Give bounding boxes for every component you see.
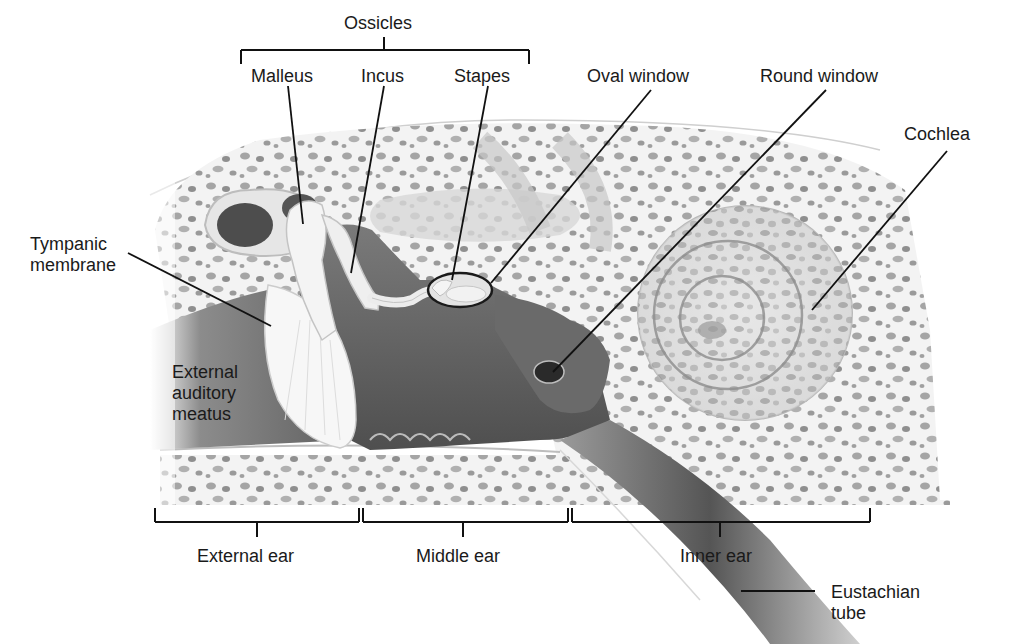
region-brackets [155, 508, 870, 537]
stapes-label: Stapes [454, 66, 510, 87]
cochlea-label: Cochlea [904, 124, 970, 145]
ear-anatomy-diagram: Ossicles Malleus Incus Stapes Oval windo… [0, 0, 1010, 644]
external-ear-label: External ear [197, 546, 294, 567]
external-auditory-meatus-label: External auditory meatus [172, 362, 238, 425]
ossicles-bracket [241, 37, 529, 64]
oval-window-label: Oval window [587, 66, 689, 87]
epitympanic-recess [217, 203, 273, 247]
tympanic-membrane-label: Tympanic membrane [30, 234, 116, 276]
semicircular-canal [370, 189, 580, 242]
round-window-label: Round window [760, 66, 878, 87]
ossicles-label: Ossicles [344, 13, 412, 34]
incus-label: Incus [361, 66, 404, 87]
anatomy-illustration [0, 0, 1010, 644]
malleus-label: Malleus [251, 66, 313, 87]
eustachian-tube-label: Eustachian tube [831, 582, 920, 624]
middle-ear-label: Middle ear [416, 546, 500, 567]
inner-ear-label: Inner ear [680, 546, 752, 567]
